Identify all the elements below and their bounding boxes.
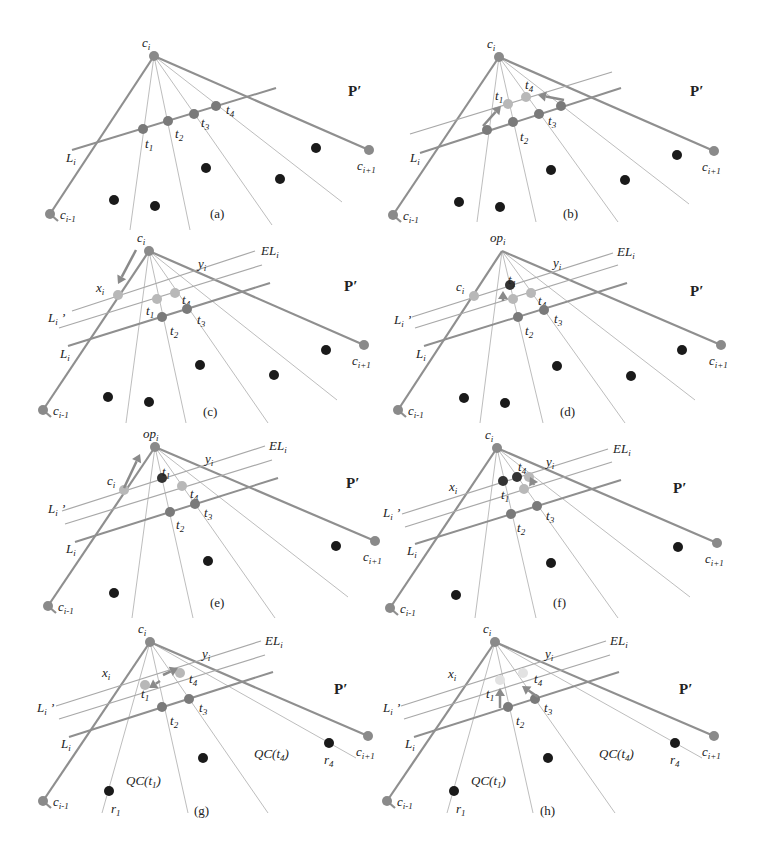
vertex-apex-label: ci bbox=[142, 35, 151, 52]
panel-d: LiLi ’ELiopici-1ci+1cit1t4t2t3yiP′(d) bbox=[380, 220, 760, 430]
point-label: t4 bbox=[525, 77, 534, 94]
ray-line bbox=[154, 56, 342, 202]
point-label: t3 bbox=[546, 508, 555, 525]
point-label: t2 bbox=[175, 126, 184, 143]
vertex-ci-minus-1 bbox=[43, 601, 53, 611]
vertex-ci bbox=[149, 51, 159, 61]
line-EL-label: ELi bbox=[260, 243, 279, 260]
vertex-ci-plus-1 bbox=[359, 340, 369, 350]
panel-caption: (h) bbox=[540, 803, 555, 818]
vertex-ci-minus-1 bbox=[38, 796, 48, 806]
vertex-ci bbox=[145, 637, 155, 647]
vertex-next-label: ci+1 bbox=[709, 353, 728, 370]
data-point bbox=[109, 588, 119, 598]
data-point bbox=[454, 197, 464, 207]
ray-line bbox=[502, 251, 695, 400]
panel-caption: (g) bbox=[194, 803, 209, 818]
annotation-label: yi bbox=[551, 255, 562, 272]
hull-edge-next bbox=[499, 57, 714, 151]
point-label: t3 bbox=[204, 505, 213, 522]
intersection-point bbox=[182, 304, 192, 314]
line-L-label: Li bbox=[65, 150, 76, 167]
vertex-next-label: ci+1 bbox=[352, 353, 371, 370]
point-label: t1 bbox=[146, 303, 154, 320]
vertex-apex-label: ci bbox=[485, 427, 494, 444]
line-EL-label: ELi bbox=[616, 244, 635, 261]
data-point bbox=[201, 163, 211, 173]
data-point bbox=[552, 361, 562, 371]
intersection-point bbox=[113, 290, 123, 300]
intersection-point bbox=[503, 702, 513, 712]
vertex-ci-plus-1 bbox=[712, 538, 722, 548]
intersection-point bbox=[152, 294, 162, 304]
hull-edge-prev bbox=[48, 447, 155, 606]
vertex-ci-minus-1 bbox=[388, 210, 398, 220]
point-label: t2 bbox=[170, 323, 179, 340]
data-point bbox=[203, 556, 213, 566]
point-label: t1 bbox=[145, 136, 153, 153]
region-P-prime-label: P′ bbox=[673, 480, 686, 496]
region-P-prime-label: P′ bbox=[690, 283, 703, 299]
intersection-point bbox=[177, 481, 187, 491]
intersection-point bbox=[184, 694, 194, 704]
move-arrow-icon bbox=[522, 686, 538, 697]
data-point bbox=[144, 397, 154, 407]
vertex-next-label: ci+1 bbox=[702, 159, 721, 176]
move-arrow-icon bbox=[149, 679, 160, 688]
data-point bbox=[459, 393, 469, 403]
annotation-label: r4 bbox=[324, 752, 334, 769]
intersection-point bbox=[503, 99, 513, 109]
annotation-label: xi bbox=[447, 666, 457, 683]
line-L-prime-label: Li ’ bbox=[36, 700, 54, 717]
intersection-point bbox=[508, 117, 518, 127]
diagram-figure: Licici-1ci+1t1t2t3t4P′(a)Licici-1ci+1t2t… bbox=[0, 0, 761, 843]
data-point bbox=[109, 195, 119, 205]
point-label: t2 bbox=[170, 713, 179, 730]
annotation-label: yi bbox=[543, 646, 554, 663]
vertex-prev-label: ci-1 bbox=[397, 794, 413, 811]
vertex-prev-label: ci-1 bbox=[53, 403, 69, 420]
vertex-ci-plus-1 bbox=[370, 536, 380, 546]
data-point bbox=[324, 738, 334, 748]
intersection-point bbox=[482, 125, 492, 135]
intersection-point bbox=[189, 109, 199, 119]
point-label: xi bbox=[95, 280, 105, 297]
line-L bbox=[75, 478, 278, 542]
annotation-label: QC(t4) bbox=[599, 746, 634, 763]
point-label: t3 bbox=[199, 700, 208, 717]
vertex-ci bbox=[490, 637, 500, 647]
line-L-prime-label: Li ’ bbox=[382, 700, 400, 717]
vertex-next-label: ci+1 bbox=[357, 158, 376, 175]
panel-caption: (d) bbox=[560, 404, 575, 419]
point-label: t2 bbox=[517, 520, 526, 537]
vertex-prev-label: ci-1 bbox=[58, 599, 74, 616]
annotation-label: QC(t4) bbox=[254, 746, 289, 763]
data-point bbox=[546, 558, 556, 568]
annotation-label: yi bbox=[196, 256, 207, 273]
vertex-ci-plus-1 bbox=[709, 731, 719, 741]
data-point bbox=[546, 165, 556, 175]
vertex-ci-minus-1 bbox=[45, 209, 55, 219]
annotation-label: r1 bbox=[456, 801, 466, 818]
line-EL bbox=[56, 641, 261, 706]
line-EL bbox=[401, 641, 606, 706]
data-point bbox=[673, 542, 683, 552]
panel-caption: (f) bbox=[553, 595, 566, 610]
vertex-ci-plus-1 bbox=[364, 145, 374, 155]
vertex-ci-plus-1 bbox=[363, 731, 373, 741]
line-L-label: Li bbox=[60, 736, 71, 753]
point-label: t3 bbox=[548, 113, 557, 130]
panel-a: Licici-1ci+1t1t2t3t4P′(a) bbox=[0, 0, 380, 210]
point-label: t2 bbox=[516, 713, 525, 730]
intersection-point bbox=[519, 484, 529, 494]
annotation-label: t4 bbox=[189, 671, 198, 688]
panel-caption: (a) bbox=[210, 206, 224, 221]
annotation-label: t1 bbox=[486, 686, 494, 703]
intersection-point bbox=[534, 109, 544, 119]
line-EL-label: ELi bbox=[612, 441, 631, 458]
vertex-apex-label: ci bbox=[487, 36, 496, 53]
annotation-label: xi bbox=[101, 665, 111, 682]
intersection-point bbox=[157, 702, 167, 712]
data-point bbox=[103, 392, 113, 402]
annotation-label: r1 bbox=[111, 801, 121, 818]
